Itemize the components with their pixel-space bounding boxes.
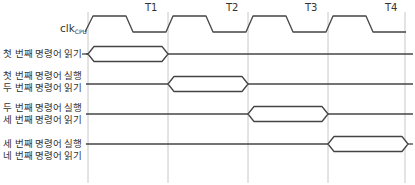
row-3-bus (248, 107, 328, 122)
row-2-bus (168, 77, 248, 92)
row-label-4-line-1: 세 번째 명령어 실행 (3, 138, 82, 150)
period-label-t2: T2 (226, 2, 238, 13)
row-label-3: 두 번째 명령어 실행 세 번째 명령어 읽기 (3, 102, 82, 126)
row-1-bus (88, 47, 168, 62)
row-label-1: 첫 번째 명령어 읽기 (3, 48, 82, 60)
row-label-1-line-1: 첫 번째 명령어 읽기 (3, 48, 82, 60)
clock-waveform (85, 16, 406, 32)
timing-diagram: clkCPU T1 T2 T3 T4 첫 번째 명령어 읽기 첫 번째 명령어 … (0, 0, 415, 185)
row-4-bus (328, 137, 408, 152)
row-label-2-line-1: 첫 번째 명령어 실행 (3, 70, 82, 82)
clock-label-subscript: CPU (75, 28, 87, 35)
clock-label-text: clk (60, 22, 75, 34)
row-label-3-line-1: 두 번째 명령어 실행 (3, 102, 82, 114)
clock-label: clkCPU (60, 22, 87, 35)
row-label-4: 세 번째 명령어 실행 네 번째 명령어 읽기 (3, 138, 82, 162)
period-label-t3: T3 (305, 2, 317, 13)
row-label-2: 첫 번째 명령어 실행 두 번째 명령어 읽기 (3, 70, 82, 94)
row-label-4-line-2: 네 번째 명령어 읽기 (3, 150, 82, 162)
row-label-2-line-2: 두 번째 명령어 읽기 (3, 82, 82, 94)
row-label-3-line-2: 세 번째 명령어 읽기 (3, 114, 82, 126)
period-label-t4: T4 (385, 2, 397, 13)
period-label-t1: T1 (145, 2, 157, 13)
